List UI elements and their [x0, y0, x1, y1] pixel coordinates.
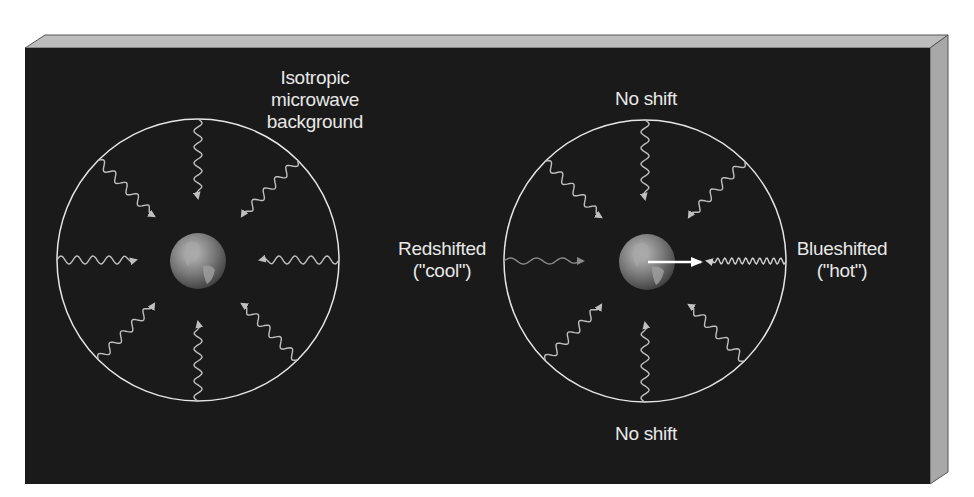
- cmb-dipole-diagram: Isotropic microwave background No shift …: [0, 0, 974, 497]
- label-line: Blueshifted: [787, 238, 897, 260]
- label-line: ("hot"): [787, 260, 897, 282]
- label-isotropic-background: Isotropic microwave background: [255, 67, 375, 133]
- label-line: background: [255, 111, 375, 133]
- panel-top-bevel: [25, 35, 948, 48]
- label-line: ("cool"): [392, 260, 492, 282]
- label-line: microwave: [255, 89, 375, 111]
- label-redshifted: Redshifted ("cool"): [392, 238, 492, 282]
- label-line: Redshifted: [392, 238, 492, 260]
- label-no-shift-top: No shift: [596, 88, 696, 110]
- label-blueshifted: Blueshifted ("hot"): [787, 238, 897, 282]
- label-line: Isotropic: [255, 67, 375, 89]
- label-no-shift-bottom: No shift: [596, 423, 696, 445]
- left-earth-icon: [170, 233, 226, 289]
- panel-side-bevel: [930, 35, 948, 484]
